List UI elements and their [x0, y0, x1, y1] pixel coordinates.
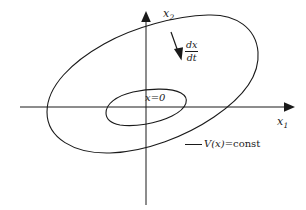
level-curve-function: V(x): [204, 138, 225, 149]
diagram-canvas: [0, 0, 306, 210]
x-axis-label-subscript: 1: [284, 121, 289, 130]
velocity-vector-arrowhead-icon: [174, 47, 183, 60]
derivative-numerator: dx: [185, 40, 198, 50]
equilibrium-point-label: x=0: [145, 93, 165, 103]
derivative-denominator: dt: [185, 52, 198, 62]
velocity-vector-dx-dt: [171, 32, 183, 61]
y-axis-label: x2: [163, 8, 174, 19]
y-axis-arrowhead-icon: [141, 11, 151, 22]
velocity-vector-label: dx dt: [185, 40, 198, 62]
y-axis-label-subscript: 2: [170, 13, 175, 22]
level-curve-label: V(x)=const: [204, 139, 260, 149]
x-axis: [20, 102, 295, 112]
x-axis-label: x1: [277, 116, 288, 127]
x-axis-arrowhead-icon: [284, 102, 295, 112]
lyapunov-diagram: x2 x1 x=0 dx dt V(x)=const: [0, 0, 306, 210]
level-curve-value: =const: [225, 138, 261, 149]
outer-level-curve: [47, 15, 258, 153]
y-axis: [141, 11, 151, 205]
